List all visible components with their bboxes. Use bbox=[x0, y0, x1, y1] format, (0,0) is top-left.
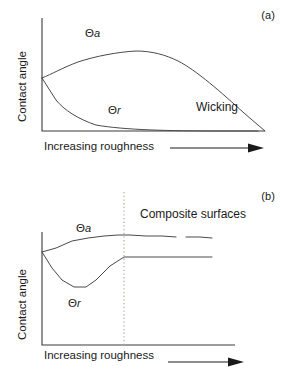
theta-glyph: Θ bbox=[85, 27, 94, 39]
panel-b-curve-theta-a-segment2 bbox=[186, 237, 212, 238]
panel-b-y-axis-label: Contact angle bbox=[16, 269, 28, 340]
panel-b-theta-advancing-label: Θa bbox=[76, 222, 91, 234]
panel-b-composite-surfaces-label: Composite surfaces bbox=[140, 207, 246, 221]
theta-subscript: a bbox=[94, 27, 100, 39]
panel-b: (b) Contact angle Increasing roughness Θ… bbox=[0, 190, 287, 383]
panel-a-theta-advancing-label: Θa bbox=[85, 27, 100, 39]
panel-b-theta-receding-label: Θr bbox=[68, 297, 81, 309]
theta-subscript: r bbox=[117, 104, 121, 116]
panel-a-wicking-label: Wicking bbox=[196, 100, 238, 114]
panel-b-curve-theta-a bbox=[42, 235, 176, 252]
panel-a-label: (a) bbox=[261, 9, 275, 21]
theta-subscript: a bbox=[85, 222, 91, 234]
panel-a-theta-receding-label: Θr bbox=[108, 104, 121, 116]
panel-b-x-axis-label: Increasing roughness bbox=[44, 349, 154, 361]
panel-a-curve-theta-a bbox=[42, 51, 265, 131]
panel-a-roughness-arrow bbox=[170, 144, 264, 153]
theta-glyph: Θ bbox=[108, 104, 117, 116]
panel-a-y-axis-label: Contact angle bbox=[16, 51, 28, 122]
panel-a-x-axis-label: Increasing roughness bbox=[44, 140, 154, 152]
panel-b-curve-theta-r bbox=[42, 252, 212, 287]
theta-subscript: r bbox=[77, 297, 81, 309]
theta-glyph: Θ bbox=[76, 222, 85, 234]
panel-a: (a) Contact angle Increasing roughness Θ… bbox=[0, 0, 287, 192]
panel-b-roughness-arrow bbox=[168, 358, 244, 367]
panel-a-plot bbox=[0, 0, 287, 192]
theta-glyph: Θ bbox=[68, 297, 77, 309]
panel-a-axes bbox=[42, 18, 265, 131]
panel-b-axes bbox=[42, 232, 235, 345]
figure-contact-angle-vs-roughness: (a) Contact angle Increasing roughness Θ… bbox=[0, 0, 287, 383]
panel-b-label: (b) bbox=[261, 190, 275, 202]
